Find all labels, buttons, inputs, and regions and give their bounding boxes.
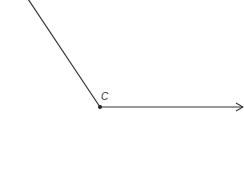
angle-diagram bbox=[0, 0, 244, 171]
ray-ca bbox=[28, 0, 100, 107]
vertex-label: C bbox=[101, 91, 108, 102]
vertex-point bbox=[98, 105, 102, 109]
